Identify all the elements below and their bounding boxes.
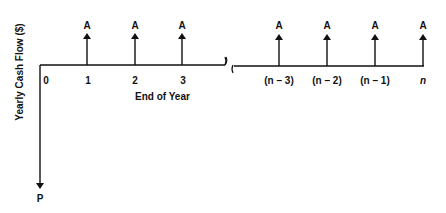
tick-label-3: 3	[180, 75, 186, 86]
tick-label-n1: (n – 1)	[360, 75, 389, 86]
inflow-label-1: A	[83, 20, 90, 31]
inflow-label-n: A	[419, 20, 426, 31]
tick-label-n: n	[420, 75, 426, 86]
x-axis-label: End of Year	[135, 91, 190, 102]
inflow-label-n3: A	[275, 20, 282, 31]
inflow-label-2: A	[131, 20, 138, 31]
outflow-label-p: P	[37, 193, 44, 204]
y-axis-label: Yearly Cash Flow ($)	[14, 23, 25, 120]
tick-label-n2: (n – 2)	[312, 75, 341, 86]
inflow-label-n2: A	[323, 20, 330, 31]
inflow-label-3: A	[178, 20, 185, 31]
tick-label-0: 0	[43, 75, 49, 86]
tick-label-n3: (n – 3)	[264, 75, 293, 86]
cash-flow-diagram	[0, 0, 446, 213]
inflow-label-n1: A	[371, 20, 378, 31]
tick-label-1: 1	[85, 75, 91, 86]
tick-label-2: 2	[132, 75, 138, 86]
